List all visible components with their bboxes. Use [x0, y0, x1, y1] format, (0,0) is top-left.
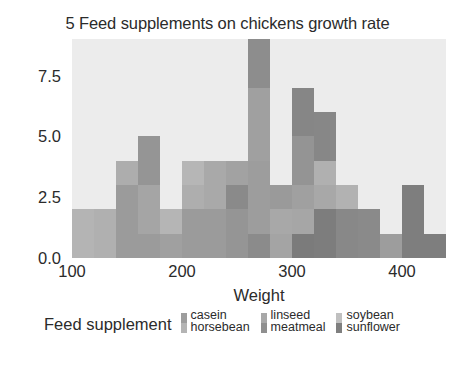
- legend-label-group: caseinhorsebean: [191, 310, 250, 333]
- x-axis: 100200300400: [72, 262, 446, 286]
- bar-segment: [160, 234, 182, 258]
- y-axis: 0.02.55.07.5: [0, 39, 68, 258]
- bar-segment: [94, 209, 116, 258]
- bar-segment: [226, 161, 248, 185]
- y-axis-tick-label: 7.5: [38, 66, 61, 85]
- bar-segment: [292, 209, 314, 233]
- legend-label-horsebean[interactable]: horsebean: [191, 322, 250, 334]
- x-axis-tick-label: 100: [58, 262, 86, 281]
- bar-segment: [138, 185, 160, 234]
- x-axis-tick-label: 400: [388, 262, 416, 281]
- bar-segment: [314, 185, 336, 209]
- bar-segment: [204, 209, 226, 258]
- y-axis-tick-label: 2.5: [38, 188, 61, 207]
- bar-segment: [380, 234, 402, 258]
- legend-swatch-group: [181, 310, 187, 333]
- bar-segment: [314, 161, 336, 185]
- bar-segment: [402, 185, 424, 258]
- x-axis-tick-label: 300: [278, 262, 306, 281]
- bar-segment: [182, 161, 204, 185]
- chart-figure: 5 Feed supplements on chickens growth ra…: [0, 0, 455, 366]
- legend-swatch-soybean[interactable]: [336, 313, 342, 323]
- bar-segment: [292, 234, 314, 258]
- bar-segment: [292, 88, 314, 137]
- legend-swatch-sunflower[interactable]: [336, 323, 342, 333]
- bar-segment: [270, 185, 292, 209]
- chart-title: 5 Feed supplements on chickens growth ra…: [0, 14, 455, 33]
- bar-segment: [182, 185, 204, 209]
- bar-segment: [226, 185, 248, 209]
- bar-segment: [204, 161, 226, 210]
- bar-segment: [292, 185, 314, 209]
- bar-segment: [182, 209, 204, 258]
- bar-segment: [72, 209, 94, 258]
- bar-segment: [292, 136, 314, 185]
- legend-swatch-horsebean[interactable]: [181, 323, 187, 333]
- legend-swatch-group: [261, 310, 267, 333]
- legend-swatch-group: [336, 310, 342, 333]
- bar-segment: [160, 209, 182, 233]
- bar-segment: [358, 209, 380, 258]
- y-axis-tick-label: 5.0: [38, 127, 61, 146]
- legend-label-group: linseedmeatmeal: [271, 310, 326, 333]
- legend-column-2: soybeansunflower: [336, 310, 400, 333]
- bar-segment: [248, 234, 270, 258]
- chart-legend: Feed supplement caseinhorsebeanlinseedme…: [0, 310, 455, 344]
- x-axis-tick-label: 200: [168, 262, 196, 281]
- bar-segment: [248, 88, 270, 161]
- bar-segment: [424, 234, 446, 258]
- bar-segment: [226, 209, 248, 258]
- plot-area: [72, 39, 446, 258]
- bar-segment: [138, 136, 160, 185]
- bar-segment: [248, 161, 270, 234]
- bar-segment: [270, 234, 292, 258]
- legend-column-0: caseinhorsebean: [181, 310, 250, 333]
- legend-label-sunflower[interactable]: sunflower: [346, 322, 400, 334]
- x-axis-label: Weight: [72, 286, 446, 305]
- legend-label-meatmeal[interactable]: meatmeal: [271, 322, 326, 334]
- bar-segment: [336, 209, 358, 258]
- bar-segment: [314, 209, 336, 258]
- legend-swatch-linseed[interactable]: [261, 313, 267, 323]
- bar-segment: [116, 185, 138, 258]
- legend-column-1: linseedmeatmeal: [261, 310, 326, 333]
- legend-label-group: soybeansunflower: [346, 310, 400, 333]
- bar-segment: [138, 234, 160, 258]
- bar-segment: [270, 209, 292, 233]
- legend-title: Feed supplement: [44, 310, 172, 338]
- bar-segment: [248, 39, 270, 88]
- bar-segment: [336, 185, 358, 209]
- bar-segment: [116, 161, 138, 185]
- legend-swatch-meatmeal[interactable]: [261, 323, 267, 333]
- bar-segment: [314, 112, 336, 161]
- legend-swatch-casein[interactable]: [181, 313, 187, 323]
